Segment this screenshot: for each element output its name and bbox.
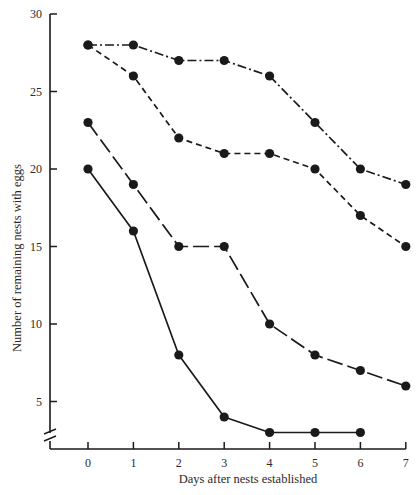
data-point-marker [356,164,365,173]
series-line [88,123,406,387]
data-point-marker [174,133,183,142]
data-point-marker [265,319,274,328]
x-tick-label: 7 [403,456,409,470]
axes: 5101520253001234567 [30,7,409,470]
data-point-marker [174,56,183,65]
data-point-marker [401,242,410,251]
data-point-marker [356,211,365,220]
series-dash-dot [83,40,410,189]
series-line [88,169,360,433]
y-tick-label: 15 [30,240,42,254]
y-tick-label: 10 [30,317,42,331]
x-tick-label: 2 [176,456,182,470]
data-point-marker [265,149,274,158]
data-point-marker [83,118,92,127]
data-point-marker [401,180,410,189]
chart-figure: 5101520253001234567 Days after nests est… [0,0,420,495]
data-point-marker [129,180,138,189]
data-point-marker [265,428,274,437]
data-point-marker [129,40,138,49]
data-point-marker [83,164,92,173]
series-line [88,45,406,185]
line-chart: 5101520253001234567 Days after nests est… [0,0,420,495]
data-point-marker [310,428,319,437]
x-tick-label: 5 [312,456,318,470]
data-point-marker [265,71,274,80]
data-point-marker [310,350,319,359]
axis-break-icon [44,436,56,441]
series-long-dash [83,118,410,391]
x-tick-label: 1 [130,456,136,470]
data-point-marker [83,40,92,49]
y-tick-label: 20 [30,162,42,176]
series-short-dash [83,40,410,251]
data-point-marker [220,242,229,251]
x-tick-label: 6 [357,456,363,470]
data-point-marker [174,350,183,359]
y-tick-label: 30 [30,7,42,21]
data-point-marker [356,366,365,375]
data-point-marker [401,381,410,390]
data-point-marker [356,428,365,437]
y-axis-title: Number of remaining nests with eggs [10,164,24,352]
x-tick-label: 3 [221,456,227,470]
data-point-marker [174,242,183,251]
y-tick-label: 5 [36,395,42,409]
data-point-marker [310,164,319,173]
series-layer [83,40,410,437]
x-axis-title: Days after nests established [179,472,318,486]
data-point-marker [220,149,229,158]
series-solid [83,164,365,437]
y-tick-label: 25 [30,85,42,99]
data-point-marker [220,412,229,421]
data-point-marker [129,71,138,80]
data-point-marker [129,226,138,235]
x-tick-label: 4 [267,456,273,470]
x-tick-label: 0 [85,456,91,470]
data-point-marker [220,56,229,65]
data-point-marker [310,118,319,127]
